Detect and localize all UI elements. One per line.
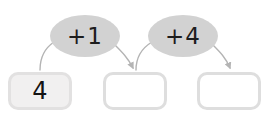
operation-label-1: +1 <box>67 25 103 48</box>
number-box-3[interactable] <box>197 72 261 110</box>
arrow-op2-to-box3 <box>212 44 230 68</box>
number-box-1-value: 4 <box>32 79 47 103</box>
operation-label-2: +4 <box>165 25 201 48</box>
operation-bubble-1[interactable]: +1 <box>50 15 120 57</box>
arrow-op1-to-box2 <box>114 44 133 68</box>
operation-bubble-2[interactable]: +4 <box>148 15 218 57</box>
arrow-box1-to-op1 <box>40 42 54 70</box>
number-box-1[interactable]: 4 <box>8 72 72 110</box>
number-box-2[interactable] <box>103 72 167 110</box>
arrow-box2-to-op2 <box>136 42 152 70</box>
number-chain-worksheet: +1 +4 4 <box>0 0 280 125</box>
